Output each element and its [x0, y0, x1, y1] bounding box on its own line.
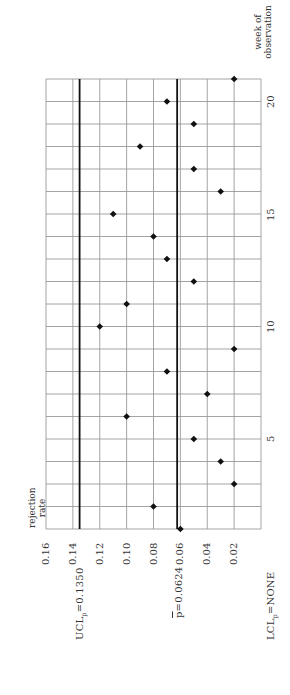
data-point-diamond-icon [96, 323, 103, 330]
y-tick-label: 0.12 [94, 543, 105, 565]
data-point-diamond-icon [137, 143, 144, 150]
x-tick-label: 5 [265, 436, 276, 442]
ucl-value: =0.1350 [74, 568, 85, 613]
x-tick-label: 20 [265, 95, 276, 108]
grid-lines [46, 79, 261, 529]
data-point-diamond-icon [150, 503, 157, 510]
x-axis-title-line2: observation [264, 2, 274, 62]
y-axis-title-line2: rate [38, 488, 48, 528]
data-point-diamond-icon [164, 368, 171, 375]
data-point-diamond-icon [177, 526, 184, 533]
y-tick-label: 0.14 [67, 543, 78, 565]
data-point-diamond-icon [123, 413, 130, 420]
data-point-diamond-icon [123, 301, 130, 308]
pbar-value: =0.0624 [173, 567, 184, 612]
ucl-label: UCL [74, 617, 85, 640]
data-point-diamond-icon [164, 98, 171, 105]
data-point-diamond-icon [191, 121, 198, 128]
data-point-diamond-icon [217, 458, 224, 465]
data-point-diamond-icon [191, 436, 198, 443]
y-tick-label: 0.02 [228, 543, 239, 565]
data-point-diamond-icon [204, 391, 211, 398]
data-point-diamond-icon [110, 211, 117, 218]
control-chart [0, 0, 290, 695]
data-point-diamond-icon [150, 233, 157, 240]
data-point-diamond-icon [191, 278, 198, 285]
data-point-diamond-icon [217, 188, 224, 195]
data-point-diamond-icon [231, 346, 238, 353]
x-axis-title: week of observation [254, 2, 273, 62]
y-axis-title: rejection rate [28, 488, 47, 528]
lcl-subscript: p [271, 614, 279, 618]
y-tick-label: 0.04 [201, 543, 212, 565]
data-point-diamond-icon [231, 76, 238, 83]
lcl-label: LCL [265, 618, 276, 640]
y-tick-label: 0.08 [148, 543, 159, 565]
x-tick-label: 10 [265, 320, 276, 333]
data-point-diamond-icon [164, 256, 171, 263]
y-tick-label: 0.10 [121, 543, 132, 565]
lcl-value: =NONE [265, 572, 276, 614]
pbar-annotation: p=0.0624 [173, 567, 184, 618]
pbar-label: p [173, 611, 184, 618]
ucl-subscript: p [80, 612, 88, 616]
y-tick-label: 0.06 [174, 543, 185, 565]
y-tick-label: 0.16 [40, 543, 51, 565]
lcl-annotation: LCLp=NONE [265, 572, 281, 640]
data-point-diamond-icon [191, 166, 198, 173]
x-tick-label: 15 [265, 208, 276, 221]
data-point-diamond-icon [231, 481, 238, 488]
ucl-annotation: UCLp=0.1350 [74, 568, 90, 640]
